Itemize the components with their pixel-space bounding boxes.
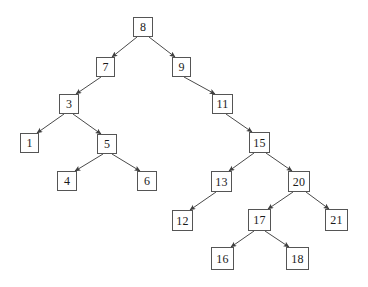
tree-edge-n17-to-n18	[265, 231, 289, 247]
tree-node-label: 8	[140, 21, 146, 33]
tree-node-label: 7	[102, 61, 108, 73]
tree-node-3: 3	[59, 94, 79, 114]
tree-node-8: 8	[133, 17, 153, 37]
tree-edge-n20-to-n21	[306, 192, 329, 209]
tree-node-label: 5	[104, 138, 110, 150]
binary-search-tree-diagram: 87931115154613201217211618	[0, 0, 368, 287]
tree-edge-n5-to-n6	[112, 154, 140, 171]
tree-node-label: 18	[291, 252, 303, 264]
tree-edges-layer	[0, 0, 368, 287]
tree-edge-n17-to-n16	[231, 231, 254, 247]
tree-node-11: 11	[212, 94, 233, 114]
tree-node-21: 21	[325, 209, 348, 231]
tree-edge-n8-to-n7	[112, 37, 137, 57]
tree-node-label: 20	[293, 175, 305, 187]
tree-edge-n9-to-n11	[184, 77, 215, 94]
tree-node-label: 9	[178, 61, 184, 73]
tree-edge-n15-to-n13	[229, 153, 254, 171]
tree-edge-n11-to-n15	[226, 114, 252, 132]
tree-node-label: 15	[253, 136, 265, 148]
tree-node-label: 13	[215, 175, 227, 187]
tree-node-17: 17	[248, 209, 271, 231]
tree-node-15: 15	[249, 132, 270, 153]
tree-node-1: 1	[20, 133, 39, 153]
tree-node-label: 21	[330, 214, 342, 226]
tree-node-5: 5	[97, 134, 117, 154]
tree-node-4: 4	[57, 171, 77, 191]
tree-node-label: 17	[253, 214, 265, 226]
tree-node-label: 4	[64, 175, 70, 187]
tree-edge-n7-to-n3	[76, 77, 101, 94]
tree-node-16: 16	[211, 247, 234, 270]
tree-node-label: 11	[217, 98, 229, 110]
tree-edge-n3-to-n1	[37, 114, 64, 133]
tree-node-18: 18	[286, 247, 309, 270]
tree-edge-n8-to-n9	[149, 37, 175, 57]
tree-edge-n5-to-n4	[75, 154, 103, 171]
tree-node-7: 7	[96, 57, 115, 77]
tree-node-label: 16	[216, 252, 228, 264]
tree-node-label: 1	[26, 137, 32, 149]
tree-edge-n3-to-n5	[73, 114, 101, 134]
tree-node-20: 20	[288, 171, 310, 192]
tree-edge-n20-to-n17	[268, 192, 293, 209]
tree-edge-n13-to-n12	[190, 192, 216, 210]
tree-node-9: 9	[172, 57, 191, 77]
tree-node-label: 12	[176, 214, 188, 226]
tree-node-label: 3	[66, 98, 72, 110]
tree-node-12: 12	[172, 210, 193, 231]
tree-node-6: 6	[137, 171, 157, 191]
tree-node-13: 13	[211, 171, 232, 192]
tree-node-label: 6	[144, 175, 150, 187]
tree-edge-n15-to-n20	[266, 153, 292, 171]
